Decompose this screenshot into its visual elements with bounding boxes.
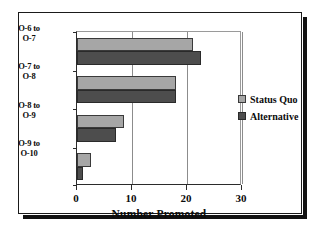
bar[interactable] <box>77 128 116 142</box>
chart-panel: 0102030 Number Promoted Status Quo Alter… <box>18 12 302 214</box>
x-axis-tick <box>241 185 242 190</box>
legend-item-status-quo[interactable]: Status Quo <box>238 92 318 106</box>
x-axis-tick-label: 30 <box>224 192 258 204</box>
x-axis-tick <box>76 185 77 190</box>
x-axis-tick <box>186 185 187 190</box>
legend-swatch-icon <box>238 95 246 103</box>
bar[interactable] <box>77 38 193 52</box>
y-axis-tick <box>73 109 77 110</box>
x-axis-tick <box>131 185 132 190</box>
bar[interactable] <box>77 167 83 181</box>
legend-label: Status Quo <box>250 94 298 105</box>
x-axis-tick-label: 20 <box>169 192 203 204</box>
y-axis-category-label: O-9 toO-10 <box>5 138 53 158</box>
y-axis-tick <box>73 32 77 33</box>
legend-item-alternative[interactable]: Alternative <box>238 109 318 123</box>
y-axis-category-label: O-6 toO-7 <box>5 23 53 43</box>
category-label-line: O-9 to <box>5 138 53 148</box>
chart-legend: Status Quo Alternative <box>238 92 318 126</box>
category-label-line: O-9 <box>5 110 53 120</box>
chart-figure: 0102030 Number Promoted Status Quo Alter… <box>0 0 320 232</box>
category-label-line: O-8 <box>5 71 53 81</box>
bar[interactable] <box>77 115 124 129</box>
category-label-line: O-6 to <box>5 23 53 33</box>
category-label-line: O-10 <box>5 148 53 158</box>
bar[interactable] <box>77 153 91 167</box>
x-axis-title: Number Promoted <box>76 208 242 220</box>
category-label-line: O-7 <box>5 33 53 43</box>
category-label-line: O-8 to <box>5 100 53 110</box>
bar[interactable] <box>77 90 176 104</box>
y-axis-tick <box>73 71 77 72</box>
y-axis-category-label: O-8 toO-9 <box>5 100 53 120</box>
bar[interactable] <box>77 51 201 65</box>
y-axis-tick <box>73 148 77 149</box>
y-axis-category-label: O-7 toO-8 <box>5 61 53 81</box>
plot-area <box>76 31 241 185</box>
x-axis-tick-label: 0 <box>59 192 93 204</box>
legend-label: Alternative <box>250 111 298 122</box>
x-axis-tick-label: 10 <box>114 192 148 204</box>
category-label-line: O-7 to <box>5 61 53 71</box>
legend-swatch-icon <box>238 112 246 120</box>
bar[interactable] <box>77 76 176 90</box>
